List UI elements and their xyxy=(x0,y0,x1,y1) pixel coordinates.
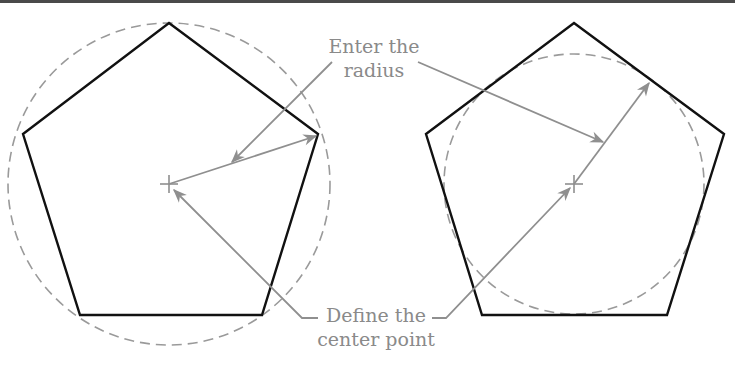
polygon-construction-diagram: Enter the radius Define the center point xyxy=(0,0,735,371)
radius-line xyxy=(169,136,316,184)
center-leader-arrow xyxy=(174,190,318,318)
center-leader-arrow xyxy=(432,188,570,318)
label-define-center-line1: Define the xyxy=(326,304,426,326)
pentagon-inscribed xyxy=(23,23,318,315)
label-enter-radius-line2: radius xyxy=(344,59,405,81)
label-define-center-line2: center point xyxy=(317,328,435,350)
radius-leader-arrow xyxy=(418,62,603,142)
right-panel xyxy=(418,23,724,318)
left-panel xyxy=(8,23,332,345)
label-enter-radius-line1: Enter the xyxy=(328,35,419,57)
pentagon-circumscribed xyxy=(426,23,724,315)
